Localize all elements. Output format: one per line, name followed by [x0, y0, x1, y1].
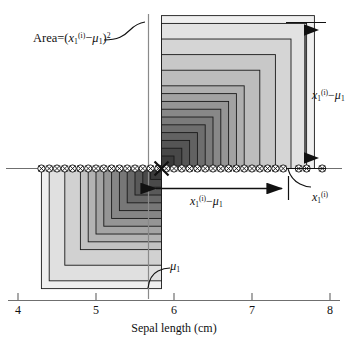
data-point-marker	[202, 165, 209, 172]
data-point-marker	[139, 165, 146, 172]
data-point-marker	[280, 165, 287, 172]
x-tick-label: 5	[82, 303, 110, 318]
area-label: Area=(x1(i)−μ1)2	[33, 31, 111, 46]
x-axis-title: Sepal length (cm)	[0, 321, 348, 336]
data-point-marker	[124, 165, 131, 172]
data-point-marker	[92, 165, 99, 172]
data-point-marker	[53, 165, 60, 172]
data-point-marker	[264, 165, 271, 172]
data-point-marker	[241, 165, 248, 172]
data-point-marker	[170, 165, 177, 172]
x-tick-label: 7	[238, 303, 266, 318]
vertical-extent-mu-sub: 1	[341, 94, 345, 103]
figure-canvas	[0, 0, 348, 342]
data-point-marker	[61, 165, 68, 172]
data-point-marker	[147, 165, 154, 172]
xi-label: x1(i)	[312, 190, 328, 205]
data-point-marker	[108, 165, 115, 172]
x-tick-label: 8	[316, 303, 344, 318]
data-point-marker	[69, 165, 76, 172]
data-point-marker	[100, 165, 107, 172]
area-label-pow: 2	[107, 31, 111, 40]
data-point-marker	[178, 165, 185, 172]
x-tick-label: 4	[4, 303, 32, 318]
data-point-marker	[131, 165, 138, 172]
data-point-marker	[248, 165, 255, 172]
data-point-marker	[77, 165, 84, 172]
mu-label: μ1	[170, 259, 180, 274]
horizontal-extent-label: x1(i)−μ1	[190, 194, 223, 209]
data-point-marker	[194, 165, 201, 172]
x-axis-ticks	[18, 293, 330, 301]
data-point-marker	[186, 165, 193, 172]
data-point-marker	[38, 165, 45, 172]
figure-container: Area=(x1(i)−μ1)2 x1(i)−μ1 x1(i)−μ1 x1(i)…	[0, 0, 348, 342]
horizontal-extent-minus: −	[206, 194, 213, 208]
nested-squares-upper-right	[162, 16, 315, 169]
data-point-marker	[272, 165, 279, 172]
nested-squares-lower-left	[41, 169, 161, 289]
data-point-marker	[256, 165, 263, 172]
xi-label-sup: (i)	[321, 190, 328, 199]
data-point-marker	[217, 165, 224, 172]
vertical-extent-label: x1(i)−μ1	[312, 88, 345, 103]
data-point-marker	[85, 165, 92, 172]
data-point-marker	[116, 165, 123, 172]
horizontal-extent-mu-sub: 1	[219, 200, 223, 209]
data-point-marker	[209, 165, 216, 172]
data-point-marker	[46, 165, 53, 172]
x-tick-label: 6	[160, 303, 188, 318]
mu-label-sub: 1	[176, 265, 180, 274]
data-point-marker	[233, 165, 240, 172]
data-point-marker	[225, 165, 232, 172]
area-label-prefix: Area	[33, 31, 57, 45]
vertical-extent-minus: −	[328, 88, 335, 102]
